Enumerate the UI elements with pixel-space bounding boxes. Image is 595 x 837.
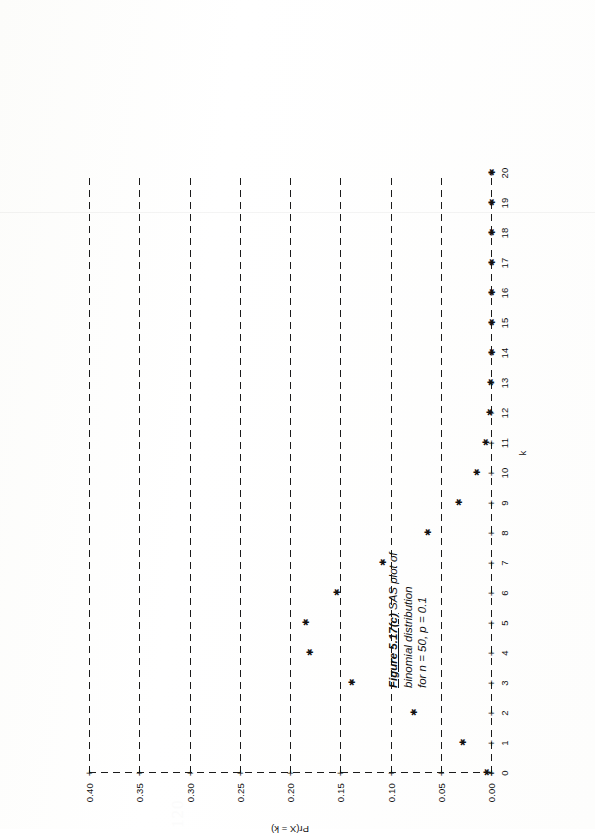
y-axis-title: Pr(X = k) (271, 824, 309, 835)
y-gridline (139, 173, 140, 773)
y-tick-mark: + (134, 770, 145, 776)
y-tick-label: 0.00 (486, 783, 497, 802)
x-tick-mark: + (486, 710, 497, 716)
x-tick-mark: + (486, 740, 497, 746)
data-point-marker (459, 740, 465, 746)
x-tick-label: 13 (499, 378, 510, 389)
y-tick-mark: + (385, 770, 396, 776)
data-point-marker (488, 230, 494, 236)
y-gridline (89, 173, 90, 773)
y-tick-label: 0.20 (285, 783, 296, 802)
y-tick-label: 0.15 (335, 783, 346, 802)
data-point-marker (488, 320, 494, 326)
x-tick-label: 12 (499, 408, 510, 419)
x-tick-label: 2 (499, 710, 510, 715)
y-tick-label: 0.40 (84, 783, 95, 802)
x-tick-label: 1 (499, 740, 510, 745)
data-point-marker (488, 260, 494, 266)
data-point-marker (488, 170, 494, 176)
data-point-marker (488, 290, 494, 296)
x-tick-label: 15 (499, 318, 510, 329)
y-tick-mark: + (435, 770, 446, 776)
y-tick-mark: + (335, 770, 346, 776)
x-tick-label: 18 (499, 228, 510, 239)
data-point-marker (487, 380, 493, 386)
x-tick-label: 19 (499, 198, 510, 209)
x-tick-label: 16 (499, 288, 510, 299)
y-gridline (290, 173, 291, 773)
y-tick-label: 0.35 (134, 783, 145, 802)
y-tick-label: 0.05 (435, 783, 446, 802)
page-number: 120 (168, 800, 188, 829)
data-point-marker (483, 770, 489, 776)
x-axis-title: k (517, 451, 528, 456)
y-gridline (340, 173, 341, 773)
data-point-marker (333, 590, 339, 596)
caption-line-1: binomial distribution (401, 438, 416, 688)
x-tick-label: 0 (499, 770, 510, 775)
data-point-marker (306, 650, 312, 656)
y-tick-mark: + (285, 770, 296, 776)
data-point-marker (488, 350, 494, 356)
data-point-marker (488, 200, 494, 206)
caption-line-0: SAS plot of (387, 552, 399, 610)
y-gridline (240, 173, 241, 773)
data-point-marker (302, 620, 308, 626)
y-tick-mark: + (184, 770, 195, 776)
x-tick-label: 14 (499, 348, 510, 359)
figure-caption: Figure 5.17(c) SAS plot of binomial dist… (386, 438, 430, 688)
y-tick-mark: + (84, 770, 95, 776)
y-gridline (190, 173, 191, 773)
y-tick-label: 0.10 (385, 783, 396, 802)
caption-line-2: for n = 50, p = 0.1 (415, 438, 430, 688)
x-tick-label: 17 (499, 258, 510, 269)
figure-number: Figure 5.17(c) (387, 613, 399, 688)
x-tick-label: 20 (499, 168, 510, 179)
caption-rotation-wrapper: Figure 5.17(c) SAS plot of binomial dist… (386, 438, 506, 688)
y-tick-mark: + (234, 770, 245, 776)
data-point-marker (348, 680, 354, 686)
data-point-marker (379, 560, 385, 566)
y-tick-label: 0.25 (234, 783, 245, 802)
data-point-marker (410, 710, 416, 716)
folio-rotation-wrapper: 120 (168, 800, 188, 829)
data-point-marker (486, 410, 492, 416)
